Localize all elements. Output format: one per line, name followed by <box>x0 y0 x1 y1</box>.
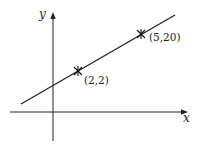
y-axis-label: y <box>38 7 46 21</box>
coordinate-diagram: x y (2,2) (5,20) <box>0 0 202 146</box>
point-label-1: (2,2) <box>84 74 109 86</box>
point-marker-2 <box>137 29 145 39</box>
plotted-line <box>21 15 175 104</box>
x-axis <box>10 109 188 114</box>
y-axis <box>50 12 55 141</box>
x-axis-label: x <box>183 111 190 125</box>
y-axis-arrow-icon <box>50 12 55 19</box>
point-label-2: (5,20) <box>149 31 181 43</box>
point-marker-1 <box>74 66 82 76</box>
